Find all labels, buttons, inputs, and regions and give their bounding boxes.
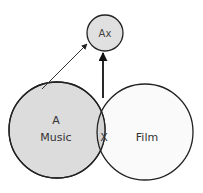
music-letter-label: A [52,114,60,127]
music-label: Music [40,131,71,144]
ax-label: Ax [99,28,112,39]
venn-diagram: Ax A Music X Film [0,0,203,193]
film-label: Film [136,131,158,144]
intersection-label: X [100,131,108,144]
